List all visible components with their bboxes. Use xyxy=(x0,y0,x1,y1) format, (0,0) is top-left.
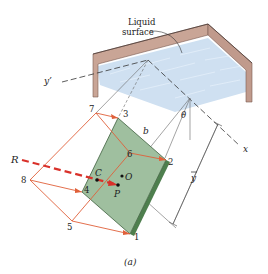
point-6-label: 6 xyxy=(127,149,132,159)
P-label: P xyxy=(113,189,121,199)
point-5-label: 5 xyxy=(67,222,72,232)
point-2-label: 2 xyxy=(168,157,173,167)
point-C xyxy=(95,178,99,182)
point-P xyxy=(116,183,120,187)
submerged-plate-diagram: Liquid surface y’ x θ b y R C O P 1 2 3 … xyxy=(0,0,268,274)
C-label: C xyxy=(95,168,102,178)
theta-label: θ xyxy=(181,110,186,120)
point-1-label: 1 xyxy=(134,232,139,242)
figure-caption: (a) xyxy=(124,257,137,267)
point-4-label: 4 xyxy=(84,185,89,195)
point-7-label: 7 xyxy=(89,104,94,114)
liquid-surface-label-1: Liquid xyxy=(128,17,156,27)
x-axis-label: x xyxy=(243,144,248,154)
b-label: b xyxy=(143,126,149,136)
y-prime-label: y’ xyxy=(43,76,52,86)
point-8-label: 8 xyxy=(21,175,26,185)
point-O xyxy=(120,174,123,177)
O-label: O xyxy=(125,172,133,182)
y-bar-label: y xyxy=(190,173,197,183)
liquid-surface-label-2: surface xyxy=(122,27,154,37)
R-label: R xyxy=(10,154,19,165)
point-3-label: 3 xyxy=(123,109,128,119)
